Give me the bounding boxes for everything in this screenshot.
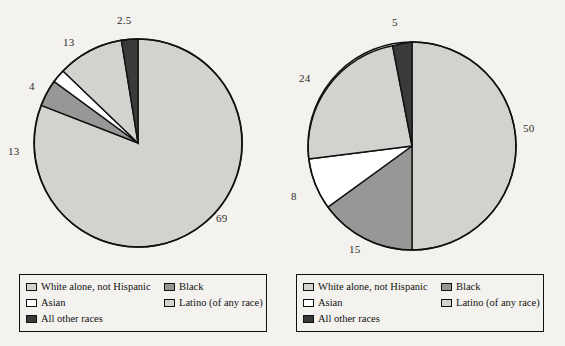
legend-item-asian: Asian — [303, 298, 441, 309]
legend-label-black: Black — [456, 282, 481, 293]
right-pie-chart: 5 24 8 15 50 — [283, 0, 565, 268]
legend-label-black: Black — [179, 282, 204, 293]
legend-item-latino: Latino (of any race) — [441, 298, 545, 309]
legend-item-white-alone: White alone, not Hispanic — [303, 282, 441, 293]
legend-item-other: All other races — [26, 314, 164, 325]
legend-label-other: All other races — [41, 314, 103, 325]
legend-item-black: Black — [164, 282, 268, 293]
left-label-white-alone: 13 — [63, 36, 74, 48]
legend-swatch-latino-icon — [164, 299, 175, 307]
left-chart-panel: 2.5 13 4 13 69 White alone, not Hispanic… — [0, 0, 282, 346]
right-legend: White alone, not Hispanic Black Asian La… — [296, 274, 544, 332]
right-pie-svg — [283, 0, 565, 268]
left-label-black: 13 — [8, 145, 19, 157]
legend-swatch-other-icon — [26, 315, 37, 323]
right-slice-latino — [412, 42, 516, 250]
legend-swatch-white-alone-icon — [26, 283, 37, 291]
legend-label-other: All other races — [318, 314, 380, 325]
legend-swatch-other-icon — [303, 315, 314, 323]
legend-swatch-asian-icon — [303, 299, 314, 307]
left-pie-svg — [0, 0, 282, 268]
right-label-black: 15 — [349, 243, 360, 255]
legend-item-latino: Latino (of any race) — [164, 298, 268, 309]
legend-swatch-black-icon — [164, 283, 175, 291]
legend-label-white-alone: White alone, not Hispanic — [318, 282, 428, 293]
left-label-other: 2.5 — [117, 14, 131, 26]
legend-item-other: All other races — [303, 314, 441, 325]
legend-item-black: Black — [441, 282, 545, 293]
right-chart-panel: 5 24 8 15 50 White alone, not Hispanic B… — [283, 0, 565, 346]
legend-item-white-alone: White alone, not Hispanic — [26, 282, 164, 293]
legend-item-asian: Asian — [26, 298, 164, 309]
right-label-other: 5 — [392, 16, 398, 28]
right-label-white-alone: 24 — [299, 72, 310, 84]
legend-swatch-asian-icon — [26, 299, 37, 307]
left-label-asian: 4 — [29, 80, 35, 92]
right-label-asian: 8 — [291, 190, 297, 202]
legend-swatch-latino-icon — [441, 299, 452, 307]
figure-root: 2.5 13 4 13 69 White alone, not Hispanic… — [0, 0, 565, 346]
left-pie-chart: 2.5 13 4 13 69 — [0, 0, 282, 268]
legend-label-white-alone: White alone, not Hispanic — [41, 282, 151, 293]
legend-swatch-white-alone-icon — [303, 283, 314, 291]
right-label-latino: 50 — [523, 122, 534, 134]
legend-label-asian: Asian — [41, 298, 66, 309]
legend-label-asian: Asian — [318, 298, 343, 309]
legend-label-latino: Latino (of any race) — [179, 298, 263, 309]
legend-label-latino: Latino (of any race) — [456, 298, 540, 309]
left-legend: White alone, not Hispanic Black Asian La… — [19, 274, 267, 332]
left-label-latino: 69 — [216, 212, 227, 224]
legend-swatch-black-icon — [441, 283, 452, 291]
